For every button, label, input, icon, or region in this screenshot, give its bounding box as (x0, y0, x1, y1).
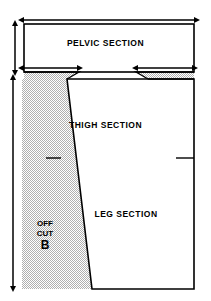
offcut-b-label: OFF CUT B (25, 219, 65, 250)
thigh-section-label: THIGH SECTION (0, 120, 211, 130)
offcut-shoulder-slivers (24, 72, 194, 79)
offcut-label-letter: B (25, 240, 65, 250)
offcut-label-line1: OFF (25, 219, 65, 229)
pelvic-section-label: PELVIC SECTION (0, 38, 211, 48)
leg-section-label: LEG SECTION (46, 209, 206, 219)
pelvic-section-shape (24, 24, 194, 72)
pattern-diagram: PELVIC SECTION THIGH SECTION LEG SECTION… (0, 0, 211, 301)
